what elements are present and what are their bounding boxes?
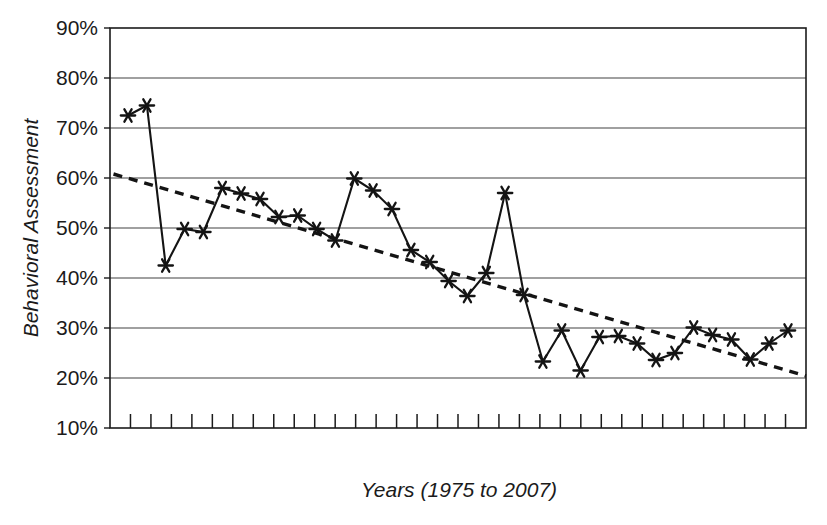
y-axis-tick-label: 10%: [56, 416, 98, 439]
x-axis-title: Years (1975 to 2007): [361, 478, 557, 501]
y-axis-tick-label: 30%: [56, 316, 98, 339]
y-axis-ticks: [104, 28, 110, 428]
chart-container: 90%80%70%60%50%40%30%20%10% Behavioral A…: [0, 0, 827, 525]
y-axis-tick-label: 90%: [56, 16, 98, 39]
y-axis-tick-label: 20%: [56, 366, 98, 389]
y-axis-tick-label: 70%: [56, 116, 98, 139]
y-axis-tick-labels: 90%80%70%60%50%40%30%20%10%: [56, 16, 98, 439]
y-axis-title: Behavioral Assessment: [19, 118, 42, 338]
y-axis-tick-label: 50%: [56, 216, 98, 239]
y-axis-tick-label: 40%: [56, 266, 98, 289]
behavioral-assessment-line-chart: 90%80%70%60%50%40%30%20%10% Behavioral A…: [0, 0, 827, 525]
y-axis-tick-label: 60%: [56, 166, 98, 189]
y-axis-tick-label: 80%: [56, 66, 98, 89]
